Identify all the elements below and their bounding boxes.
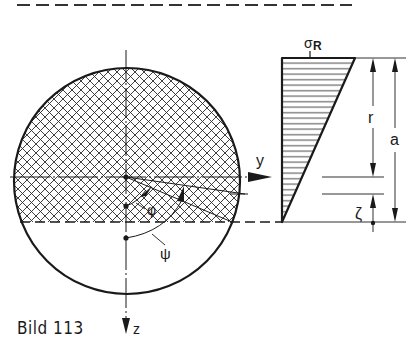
sigma-label: σ [304, 35, 313, 51]
z-axis-arrow-icon [122, 318, 130, 334]
y-axis-arrow-icon [248, 172, 272, 182]
cross-section-diagram: φ ψ y z σ R r a ζ [0, 0, 416, 344]
zeta-label: ζ [355, 205, 362, 223]
stress-distribution [282, 58, 355, 222]
r-arrow-up-icon [370, 58, 376, 72]
sigma-subscript: R [313, 39, 322, 53]
figure-caption: Bild 113 [17, 318, 84, 338]
zeta-arrow-up-icon [370, 194, 376, 208]
psi-leader [152, 234, 165, 245]
zeta-base-point [371, 221, 375, 225]
phi-label: φ [147, 202, 156, 218]
center-point [123, 174, 128, 179]
y-axis-label: y [256, 152, 264, 169]
a-label: a [390, 131, 399, 148]
z-axis-label: z [133, 321, 140, 337]
compression-zone [14, 68, 240, 294]
r-label: r [368, 109, 374, 126]
r-arrow-down-icon [370, 163, 376, 177]
psi-label: ψ [160, 245, 171, 262]
a-arrow-up-icon [392, 58, 398, 72]
a-arrow-down-icon [392, 208, 398, 222]
